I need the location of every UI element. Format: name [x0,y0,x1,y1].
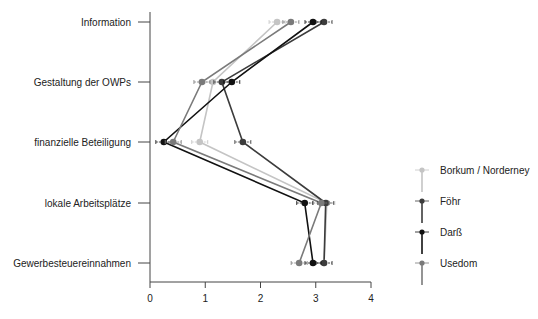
x-tick-label: 2 [258,293,264,304]
y-tick-label: Gewerbesteuereinnahmen [13,258,131,269]
data-point [228,79,235,86]
x-tick-label: 0 [147,293,153,304]
data-point [199,79,206,86]
data-point [170,139,177,146]
data-point [310,19,317,26]
data-point [240,139,247,146]
legend-label: Föhr [440,196,461,207]
legend-marker [419,229,424,234]
data-point [321,260,328,267]
y-tick-label: Information [81,17,131,28]
data-point [321,19,328,26]
y-tick-label: finanzielle Beteiligung [34,137,131,148]
legend-label: Borkum / Norderney [440,165,529,176]
data-point [301,200,308,207]
legend-marker [419,198,424,203]
x-tick-label: 1 [202,293,208,304]
data-point [318,200,325,207]
legend-label: Darß [440,227,462,238]
chart: 01234InformationGestaltung der OWPsfinan… [0,0,538,319]
x-tick-label: 3 [313,293,319,304]
legend-marker [419,260,424,265]
series-line [173,22,321,263]
y-tick-label: lokale Arbeitsplätze [45,198,132,209]
data-point [288,19,295,26]
line-chart: 01234InformationGestaltung der OWPsfinan… [0,0,538,319]
data-point [196,139,203,146]
legend-marker [419,167,424,172]
data-point [274,19,281,26]
data-point [296,260,303,267]
y-tick-label: Gestaltung der OWPs [34,77,131,88]
x-tick-label: 4 [368,293,374,304]
legend-label: Usedom [440,258,477,269]
data-point [310,260,317,267]
